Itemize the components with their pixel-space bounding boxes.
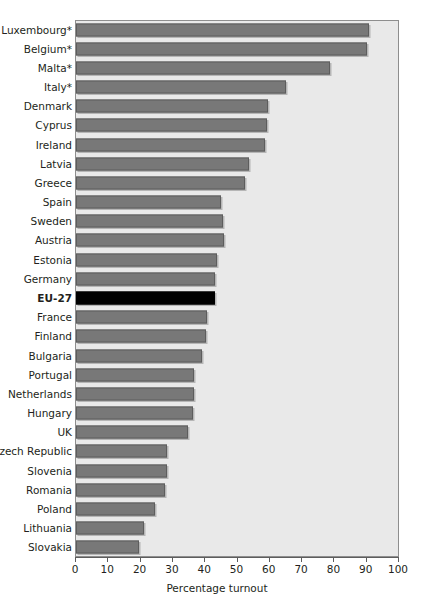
- bar-track: [76, 308, 398, 327]
- bar-track: [76, 154, 398, 173]
- bar-row: Hungary: [0, 403, 421, 422]
- bar-row: EU-27: [0, 288, 421, 307]
- bar-track: [76, 212, 398, 231]
- bar-row: Sweden: [0, 212, 421, 231]
- bar-track: [76, 58, 398, 77]
- bar: [76, 176, 245, 189]
- bar-row: Cyprus: [0, 116, 421, 135]
- x-axis: 0102030405060708090100: [75, 557, 399, 558]
- bar-row: Latvia: [0, 154, 421, 173]
- bar-row-label: Bulgaria: [28, 350, 72, 361]
- bar: [76, 61, 330, 74]
- bar: [76, 311, 207, 324]
- bar-track: [76, 518, 398, 537]
- bar: [76, 445, 167, 458]
- x-axis-tick: [398, 557, 399, 562]
- bar-row: Netherlands: [0, 384, 421, 403]
- bar-row-label: Germany: [24, 274, 72, 285]
- bar-row-label: Slovakia: [28, 542, 72, 553]
- bar-row-label: Czech Republic: [0, 446, 72, 457]
- bar-row-label: EU-27: [37, 293, 72, 304]
- bar-row-label: Denmark: [24, 101, 72, 112]
- x-axis-tick: [75, 557, 76, 562]
- bar: [76, 464, 167, 477]
- bar-row: Belgium*: [0, 39, 421, 58]
- bar: [76, 23, 369, 36]
- bar-row: Estonia: [0, 250, 421, 269]
- x-axis-tick-label: 10: [101, 564, 114, 575]
- bar-track: [76, 384, 398, 403]
- bar-row: Ireland: [0, 135, 421, 154]
- x-axis-tick: [107, 557, 108, 562]
- bar-row: Luxembourg*: [0, 20, 421, 39]
- x-axis-tick-label: 80: [327, 564, 340, 575]
- bar-track: [76, 538, 398, 557]
- bar-row: Bulgaria: [0, 346, 421, 365]
- bar-row-label: Lithuania: [23, 523, 72, 534]
- bar: [76, 196, 221, 209]
- bar: [76, 330, 206, 343]
- bar-row: Greece: [0, 173, 421, 192]
- bar-row-label: Austria: [35, 235, 72, 246]
- x-axis-tick-label: 30: [165, 564, 178, 575]
- bar-row: Germany: [0, 269, 421, 288]
- bar-row: Portugal: [0, 365, 421, 384]
- bar-row-label: Italy*: [44, 82, 72, 93]
- bar-track: [76, 461, 398, 480]
- x-axis-tick: [172, 557, 173, 562]
- bar-row-label: Finland: [34, 331, 72, 342]
- x-axis-title-label: Percentage turnout: [166, 583, 267, 594]
- bar-row: Austria: [0, 231, 421, 250]
- bar-track: [76, 327, 398, 346]
- bar-row: Denmark: [0, 97, 421, 116]
- bar-track: [76, 78, 398, 97]
- bar: [76, 387, 194, 400]
- bar-row-label: UK: [57, 427, 72, 438]
- bar: [76, 368, 194, 381]
- bar-row-label: Latvia: [40, 159, 72, 170]
- bar: [76, 100, 268, 113]
- bar: [76, 502, 155, 515]
- bar-row-label: Estonia: [33, 254, 72, 265]
- bar: [76, 426, 188, 439]
- bar: [76, 541, 139, 554]
- bar-row: Malta*: [0, 58, 421, 77]
- bar: [76, 138, 265, 151]
- x-axis-tick-label: 90: [359, 564, 372, 575]
- x-axis-tick-label: 50: [230, 564, 243, 575]
- bar-track: [76, 135, 398, 154]
- bar-row-label: Spain: [43, 197, 72, 208]
- bar-track: [76, 173, 398, 192]
- x-axis-title: Percentage turnout: [0, 583, 421, 594]
- bar: [76, 253, 217, 266]
- bar-row: Poland: [0, 499, 421, 518]
- bar: [76, 291, 215, 304]
- bar-row-label: Malta*: [38, 63, 72, 74]
- bar-track: [76, 97, 398, 116]
- bar-row-label: Hungary: [27, 408, 72, 419]
- bar-row-label: Belgium*: [24, 44, 72, 55]
- bar: [76, 483, 165, 496]
- x-axis-tick: [301, 557, 302, 562]
- x-axis-tick-label: 0: [72, 564, 79, 575]
- bar-track: [76, 193, 398, 212]
- bar-track: [76, 346, 398, 365]
- bar: [76, 234, 224, 247]
- x-axis-tick: [204, 557, 205, 562]
- x-axis-tick: [269, 557, 270, 562]
- bar-row: UK: [0, 423, 421, 442]
- bar-track: [76, 423, 398, 442]
- bar-track: [76, 39, 398, 58]
- x-axis-tick-label: 70: [294, 564, 307, 575]
- bar-row: Slovenia: [0, 461, 421, 480]
- bar-row: Romania: [0, 480, 421, 499]
- bar: [76, 522, 144, 535]
- bar-track: [76, 116, 398, 135]
- bar-row-label: Cyprus: [35, 120, 72, 131]
- bar-row-label: Sweden: [31, 216, 73, 227]
- bar: [76, 272, 215, 285]
- x-axis-tick: [366, 557, 367, 562]
- bar-track: [76, 403, 398, 422]
- bar-row: Finland: [0, 327, 421, 346]
- bar: [76, 157, 249, 170]
